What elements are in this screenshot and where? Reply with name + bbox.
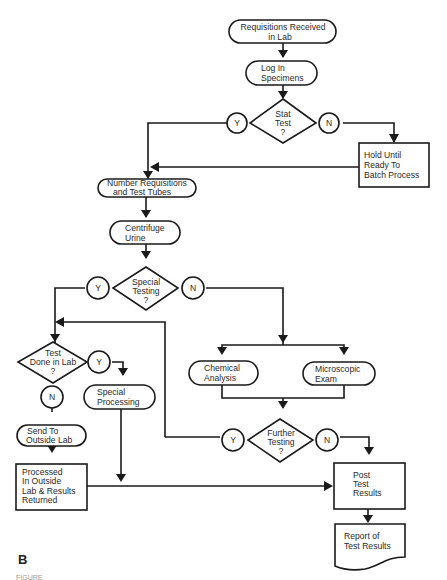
- node-label: Microscopic: [315, 364, 361, 374]
- node-label: Batch Process: [364, 170, 419, 180]
- arrow-down-icon: [141, 251, 151, 259]
- svg-text:Y: Y: [95, 283, 101, 293]
- arrow-down-icon: [50, 334, 60, 342]
- node-send-to-outside-lab: Send To Outside Lab: [17, 425, 86, 446]
- node-label: Ready To: [364, 160, 400, 170]
- decision-stat-test: Stat Test ?: [250, 99, 316, 143]
- connector-no: N: [182, 277, 204, 299]
- node-label: In Outside: [22, 476, 61, 486]
- connector-no: N: [316, 429, 338, 451]
- arrow-down-icon: [364, 447, 374, 455]
- node-label: ?: [279, 446, 284, 456]
- arrow-down-icon: [278, 335, 288, 343]
- node-label: Results: [353, 488, 382, 498]
- arrow-right-icon: [324, 481, 333, 491]
- arrow-down-icon: [339, 347, 349, 355]
- svg-text:Y: Y: [96, 357, 102, 367]
- node-label: Exam: [315, 374, 337, 384]
- node-chemical-analysis: Chemical Analysis: [189, 361, 258, 385]
- node-centrifuge-urine: Centrifuge Urine: [110, 221, 180, 244]
- node-label: Urine: [125, 233, 146, 243]
- node-special-processing: Special Processing: [84, 385, 155, 409]
- node-post-test-results: Post Test Results: [334, 463, 405, 509]
- node-label: Chemical: [204, 363, 240, 373]
- node-label: ?: [144, 295, 149, 305]
- decision-special-testing: Special Testing ?: [113, 267, 178, 310]
- node-label: Report of: [344, 531, 380, 541]
- node-label: Log In: [261, 63, 285, 73]
- node-label: and Test Tubes: [113, 187, 171, 197]
- arrow-down-icon: [217, 347, 227, 355]
- decision-further-testing: Further Testing ?: [248, 419, 313, 462]
- connector-no: N: [319, 113, 339, 133]
- svg-text:N: N: [324, 435, 330, 445]
- node-label: Processing: [97, 397, 140, 407]
- arrow-down-icon: [278, 401, 288, 409]
- arrow-left-icon: [150, 162, 159, 172]
- svg-text:Y: Y: [230, 435, 236, 445]
- node-microscopic-exam: Microscopic Exam: [303, 362, 375, 385]
- connector-yes: Y: [227, 113, 247, 133]
- connector-yes: Y: [87, 277, 109, 299]
- node-number-requisitions: Number Requisitions and Test Tubes: [98, 178, 196, 197]
- node-report-test-results: Report of Test Results: [335, 524, 405, 570]
- panel-label: B: [18, 552, 27, 567]
- node-label: Outside Lab: [26, 435, 73, 445]
- node-processed-outside: Processed In Outside Lab & Results Retur…: [16, 464, 87, 510]
- node-label: Centrifuge: [125, 223, 165, 233]
- svg-text:N: N: [326, 118, 332, 128]
- node-label: in Lab: [268, 32, 292, 42]
- svg-text:N: N: [49, 392, 55, 402]
- flowchart: Requisitions Received in Lab Log In Spec…: [0, 0, 447, 580]
- arrow-down-icon: [278, 91, 288, 99]
- connector-yes: Y: [88, 351, 110, 373]
- caption-fragment: FIGURE: [16, 574, 43, 580]
- arrow-down-icon: [389, 134, 399, 143]
- node-label: Requisitions Received: [240, 22, 325, 32]
- node-hold-until: Hold Until Ready To Batch Process: [359, 143, 429, 187]
- node-label: Hold Until: [364, 150, 401, 160]
- node-log-in-specimens: Log In Specimens: [246, 61, 317, 85]
- connector-no: N: [41, 386, 63, 408]
- node-label: Analysis: [204, 373, 236, 383]
- arrow-down-icon: [278, 50, 288, 58]
- arrow-down-icon: [141, 210, 151, 218]
- arrow-down-icon: [116, 474, 126, 482]
- decision-test-done-in-lab: Test Done in Lab ?: [18, 342, 87, 383]
- arrow-down-icon: [363, 515, 373, 523]
- connector-yes: Y: [222, 429, 244, 451]
- node-label: Returned: [22, 495, 58, 505]
- node-label: ?: [281, 127, 286, 137]
- arrow-down-icon: [118, 368, 128, 376]
- node-label: Test Results: [344, 541, 391, 551]
- svg-text:N: N: [190, 283, 196, 293]
- arrow-left-icon: [55, 317, 64, 327]
- node-requisitions-received: Requisitions Received in Lab: [229, 20, 336, 43]
- node-label: Specimens: [261, 73, 304, 83]
- svg-text:Y: Y: [234, 118, 240, 128]
- node-label: ?: [51, 366, 56, 376]
- node-label: Special: [97, 387, 125, 397]
